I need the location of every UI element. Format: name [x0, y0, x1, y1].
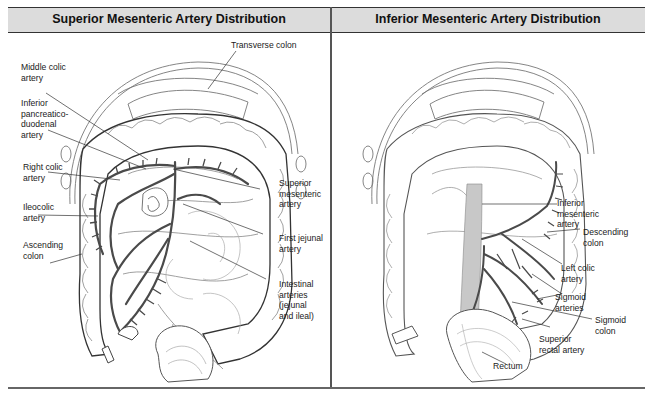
panel-title-inferior: Inferior Mesenteric Artery Distribution	[331, 7, 645, 31]
label-transverse-colon: Transverse colon	[231, 40, 297, 51]
label-inferior-pancreaticoduodenal-artery: Inferior pancreatico- duodenal artery	[21, 98, 68, 140]
label-left-colic-artery: Left colic artery	[561, 263, 595, 284]
sma-illustration	[8, 34, 329, 386]
label-middle-colic-artery: Middle colic artery	[21, 62, 66, 83]
label-sigmoid-arteries: Sigmoid arteries	[555, 292, 586, 313]
label-intestinal-arteries: Intestinal arteries (jejunal and ileal)	[279, 279, 314, 321]
label-right-colic-artery: Right colic artery	[23, 162, 63, 183]
label-inferior-mesenteric-artery: Inferior mesenteric artery	[557, 198, 599, 230]
label-ascending-colon: Ascending colon	[23, 240, 63, 261]
label-rectum: Rectum	[493, 361, 523, 372]
aorta	[460, 184, 482, 324]
ima-panel: Inferior mesenteric artery Descending co…	[332, 34, 645, 386]
label-descending-colon: Descending colon	[583, 227, 628, 248]
label-superior-rectal-artery: Superior rectal artery	[539, 334, 584, 355]
bottom-rule	[8, 387, 645, 389]
label-sigmoid-colon: Sigmoid colon	[595, 315, 626, 336]
figure-frame: Superior Mesenteric Artery Distribution …	[8, 7, 645, 389]
panel-title-superior: Superior Mesenteric Artery Distribution	[8, 7, 330, 31]
sma-panel: Middle colic artery Inferior pancreatico…	[8, 34, 329, 386]
label-superior-mesenteric-artery: Superior mesenteric artery	[279, 178, 321, 210]
label-first-jejunal-artery: First jejunal artery	[279, 233, 323, 254]
label-ileocolic-artery: Ileocolic artery	[23, 202, 54, 223]
